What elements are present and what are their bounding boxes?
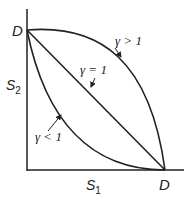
x-axis-title-sub: 1 xyxy=(95,185,101,196)
x-intercept-label: D xyxy=(159,176,170,193)
diagram-canvas: D D S2 S1 γ > 1 γ = 1 γ < 1 xyxy=(0,0,193,210)
y-intercept-label: D xyxy=(12,22,23,39)
y-axis-title: S2 xyxy=(6,77,21,96)
arrow-gamma-equal-1 xyxy=(91,78,95,87)
curve-gamma-equal-1 xyxy=(27,30,165,170)
x-axis-title: S1 xyxy=(86,177,101,196)
label-gamma-equal-1: γ = 1 xyxy=(80,62,107,77)
label-gamma-greater-than-1: γ > 1 xyxy=(115,33,142,48)
label-gamma-less-than-1: γ < 1 xyxy=(35,129,62,144)
y-axis-title-sub: 2 xyxy=(15,85,21,96)
